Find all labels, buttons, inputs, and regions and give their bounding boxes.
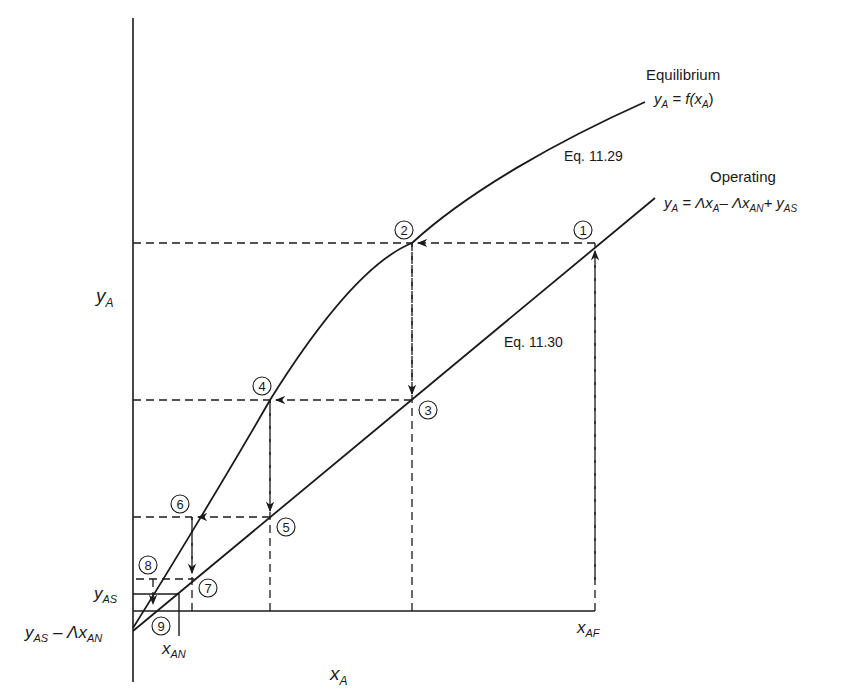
x-axis-label: xA — [329, 663, 348, 688]
svg-text:1: 1 — [579, 223, 586, 238]
svg-text:9: 9 — [157, 619, 164, 634]
equilibrium-equation: yA = f(xA) — [653, 90, 714, 110]
operating-line — [133, 198, 655, 631]
x-an-label: xAN — [161, 639, 186, 660]
equilibrium-ref: Eq. 11.29 — [564, 148, 623, 164]
stage-4-marker: 4 — [253, 377, 271, 395]
stage-9-marker: 9 — [152, 617, 170, 635]
svg-text:6: 6 — [176, 497, 183, 512]
stage-1-marker: 1 — [574, 221, 592, 239]
x-af-label: xAF — [576, 618, 601, 639]
construction-lines — [133, 243, 595, 611]
y-intercept-label: yAS – ΛxAN — [24, 623, 102, 644]
stage-2-marker: 2 — [395, 221, 413, 239]
equilibrium-title: Equilibrium — [646, 66, 720, 83]
equilibrium-curve — [133, 102, 645, 628]
stage-3-marker: 3 — [419, 401, 437, 419]
operating-equation: yA = ΛxA– ΛxAN+ yAS — [663, 194, 797, 214]
y-as-label: yAS — [93, 584, 118, 605]
svg-text:5: 5 — [282, 520, 289, 535]
svg-text:2: 2 — [400, 223, 407, 238]
svg-text:3: 3 — [424, 403, 431, 418]
svg-text:4: 4 — [258, 379, 265, 394]
stage-7-marker: 7 — [199, 579, 217, 597]
svg-text:7: 7 — [204, 581, 211, 596]
operating-ref: Eq. 11.30 — [504, 334, 563, 350]
svg-text:8: 8 — [144, 558, 151, 573]
y-axis-label: yA — [94, 285, 114, 310]
stage-diagram: 1 2 3 4 5 6 7 8 9 Equilibrium yA = f(xA)… — [0, 0, 850, 700]
operating-title: Operating — [710, 168, 776, 185]
stage-8-marker: 8 — [139, 556, 157, 574]
stage-6-marker: 6 — [171, 495, 189, 513]
stage-markers: 1 2 3 4 5 6 7 8 9 — [139, 221, 592, 635]
stage-5-marker: 5 — [277, 518, 295, 536]
